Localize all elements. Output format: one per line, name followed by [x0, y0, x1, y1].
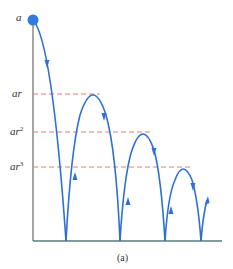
label-ar3-base: ar — [10, 160, 20, 172]
diagram-canvas — [0, 0, 233, 269]
bouncing-ball-diagram: a ar ar2 ar3 (a) — [0, 0, 233, 269]
label-ar2-exp: 2 — [20, 125, 24, 133]
bounce-3-path — [165, 169, 201, 241]
figure-caption: (a) — [0, 252, 233, 263]
bounce-4-path — [201, 200, 207, 241]
arrow-up-icon — [169, 206, 174, 214]
fall-path — [33, 20, 66, 241]
label-ar3-exp: 3 — [20, 160, 24, 168]
arrow-up-icon — [73, 172, 78, 180]
label-a: a — [16, 12, 22, 23]
bounce-1-path — [66, 95, 120, 241]
label-ar3: ar3 — [10, 161, 23, 172]
arrow-down-icon — [45, 60, 50, 68]
bounce-2-path — [120, 134, 165, 241]
label-ar: ar — [12, 88, 22, 99]
arrow-up-icon — [126, 197, 131, 205]
ball-dot — [28, 15, 39, 26]
arrow-up-icon — [205, 196, 210, 205]
label-ar2-base: ar — [10, 125, 20, 137]
label-ar2: ar2 — [10, 126, 23, 137]
